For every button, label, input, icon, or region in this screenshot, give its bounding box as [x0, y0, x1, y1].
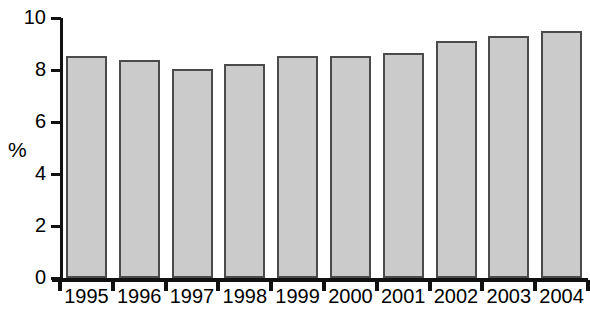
- bar-1999: [277, 56, 318, 278]
- bar-1998: [224, 64, 265, 279]
- bar-2002: [436, 41, 477, 278]
- y-tick-label: 0: [35, 267, 46, 287]
- x-tick-label-2002: 2002: [430, 284, 483, 308]
- bar-2000: [330, 56, 371, 278]
- x-tick-label-2000: 2000: [324, 284, 377, 308]
- y-tick-mark: [51, 225, 61, 228]
- x-tick-label-1998: 1998: [218, 284, 271, 308]
- y-tick-label: 10: [24, 7, 46, 27]
- plot-area: 0246810: [60, 18, 588, 278]
- bar-chart-figure: % 0246810 199519961997199819992000200120…: [0, 0, 590, 313]
- x-axis-labels: 1995199619971998199920002001200220032004: [60, 284, 588, 310]
- y-tick-mark: [51, 17, 61, 20]
- bar-1995: [66, 56, 107, 278]
- y-axis-title: %: [8, 138, 27, 162]
- y-tick-label: 4: [35, 163, 46, 183]
- bar-2003: [488, 36, 529, 278]
- x-axis-line: [52, 278, 588, 282]
- x-tick-label-2004: 2004: [535, 284, 588, 308]
- y-tick-mark: [51, 69, 61, 72]
- y-tick-label: 8: [35, 59, 46, 79]
- bar-2001: [383, 53, 424, 278]
- x-tick-label-1995: 1995: [60, 284, 113, 308]
- bar-1996: [119, 60, 160, 278]
- y-tick-label: 2: [35, 215, 46, 235]
- y-tick-mark: [51, 173, 61, 176]
- bar-1997: [172, 69, 213, 278]
- y-tick-label: 6: [35, 111, 46, 131]
- y-axis-line: [60, 18, 63, 278]
- x-tick-label-2003: 2003: [482, 284, 535, 308]
- bar-2004: [541, 31, 582, 278]
- x-tick-label-1996: 1996: [113, 284, 166, 308]
- x-tick-label-2001: 2001: [377, 284, 430, 308]
- x-tick-label-1997: 1997: [166, 284, 219, 308]
- y-tick-mark: [51, 121, 61, 124]
- x-tick-label-1999: 1999: [271, 284, 324, 308]
